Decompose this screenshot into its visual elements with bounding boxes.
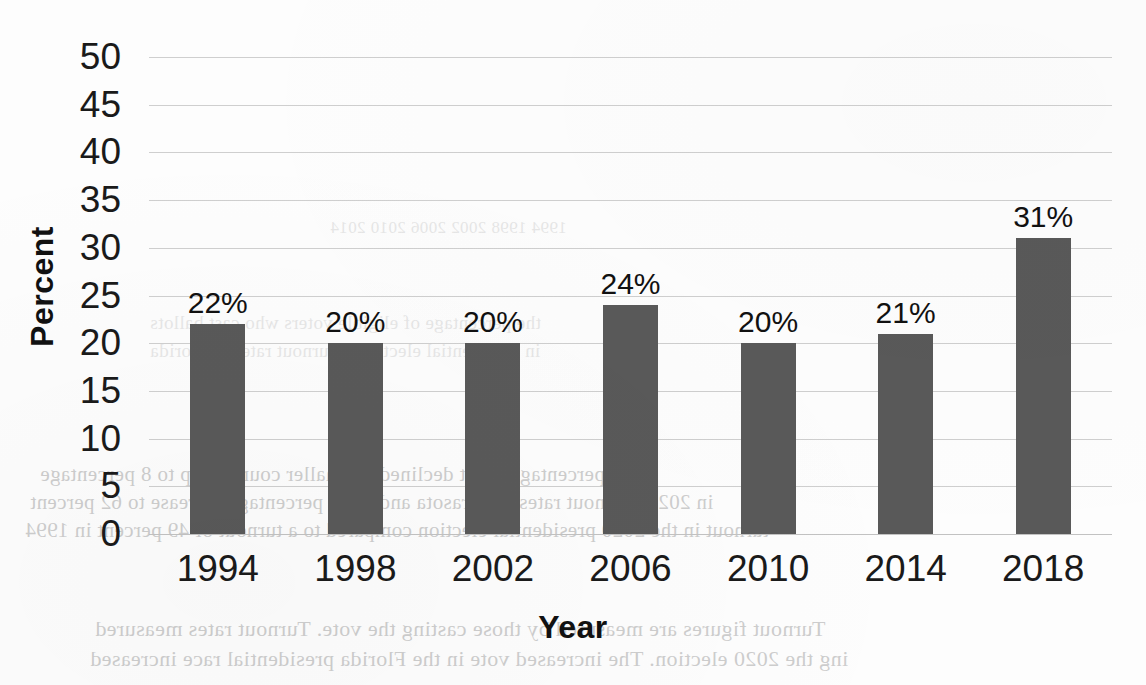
x-axis-tick-label: 2014 xyxy=(826,548,986,590)
y-axis-tick-label: 30 xyxy=(0,229,133,266)
y-axis-tick-label: 25 xyxy=(0,277,133,314)
bar-value-label: 20% xyxy=(708,305,828,339)
plot-area: 22%20%20%24%20%21%31% xyxy=(149,57,1112,534)
y-axis-tick-label: 0 xyxy=(0,515,133,552)
x-axis-tick-label: 2002 xyxy=(413,548,573,590)
bar-value-label: 22% xyxy=(158,286,278,320)
y-axis-tick-label: 50 xyxy=(0,38,133,75)
bar xyxy=(878,334,933,534)
x-axis-tick-label: 2018 xyxy=(963,548,1123,590)
bar xyxy=(190,324,245,534)
bar-value-label: 20% xyxy=(295,305,415,339)
bar xyxy=(465,343,520,534)
gridline xyxy=(149,105,1112,106)
gridline xyxy=(149,152,1112,153)
gridline xyxy=(149,248,1112,249)
bar-value-label: 21% xyxy=(846,296,966,330)
bar-value-label: 31% xyxy=(983,200,1103,234)
y-axis-tick-label: 20 xyxy=(0,324,133,361)
x-axis-tick-label: 1998 xyxy=(275,548,435,590)
y-axis-tick-label: 35 xyxy=(0,181,133,218)
bar-value-label: 20% xyxy=(433,305,553,339)
y-axis-tick-label: 45 xyxy=(0,86,133,123)
bar xyxy=(328,343,383,534)
y-axis-tick-label: 15 xyxy=(0,372,133,409)
y-axis-tick-labels: 50454035302520151050 xyxy=(0,0,133,685)
gridline xyxy=(149,534,1112,535)
y-axis-tick-label: 10 xyxy=(0,420,133,457)
y-axis-tick-label: 40 xyxy=(0,133,133,170)
bleedthrough-text: ing the 2020 election. The increased vot… xyxy=(90,646,848,672)
y-axis-tick-label: 5 xyxy=(0,467,133,504)
gridline xyxy=(149,200,1112,201)
y-axis-title: Percent xyxy=(24,187,61,387)
x-axis-tick-label: 1994 xyxy=(138,548,298,590)
x-axis-tick-label: 2010 xyxy=(688,548,848,590)
bar xyxy=(741,343,796,534)
x-axis-title: Year xyxy=(0,609,1146,646)
bar xyxy=(603,305,658,534)
x-axis-tick-label: 2006 xyxy=(551,548,711,590)
bar-value-label: 24% xyxy=(571,267,691,301)
gridline xyxy=(149,57,1112,58)
bar-chart-figure: 1994 1998 2002 2006 2010 2014the percent… xyxy=(0,0,1146,685)
bar xyxy=(1016,238,1071,534)
